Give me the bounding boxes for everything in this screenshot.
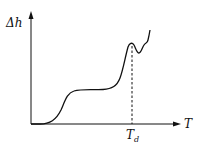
- y-axis-arrow-icon: [29, 11, 34, 19]
- td-label: Td: [126, 129, 139, 144]
- x-axis-label: T: [184, 118, 192, 130]
- td-label-main: T: [126, 128, 134, 142]
- chart-canvas: [0, 0, 202, 149]
- td-label-subscript: d: [134, 135, 139, 144]
- y-axis-label: Δh: [6, 17, 22, 29]
- x-axis-arrow-icon: [173, 122, 181, 127]
